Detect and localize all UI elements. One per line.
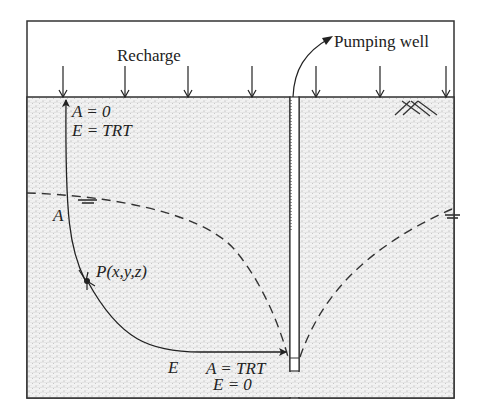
label-top-e: E = TRT: [71, 121, 133, 140]
label-bottom-e0: E = 0: [212, 375, 252, 394]
aquifer-right: [299, 97, 454, 398]
aquifer-diagram: Recharge Pumping well A = 0 E = TRT A P(…: [0, 0, 498, 416]
label-bottom-e: E: [167, 358, 179, 377]
label-top-a: A = 0: [71, 102, 111, 121]
label-side-a: A: [52, 206, 64, 225]
recharge-label: Recharge: [117, 46, 181, 65]
point-p-marker: [84, 278, 90, 284]
pumping-well: [290, 97, 299, 371]
pumping-well-label: Pumping well: [334, 32, 429, 51]
label-point-p: P(x,y,z): [95, 262, 147, 281]
